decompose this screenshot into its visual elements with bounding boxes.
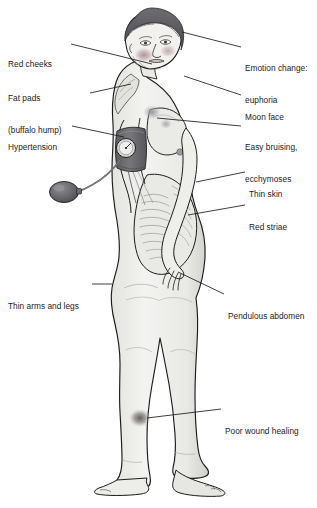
cushing-syndrome-figure: Red cheeks Fat pads (buffalo hump) Hyper… [0, 0, 317, 508]
label-pendulous-abdomen: Pendulous abdomen [228, 290, 304, 343]
ecchymosis-upper [143, 105, 161, 119]
label-fat-pads-line-1: Fat pads [8, 93, 62, 104]
label-thin-arms-and-legs-line-1: Thin arms and legs [8, 301, 79, 312]
leader-moon-face [184, 76, 241, 95]
leader-thin-skin [196, 172, 245, 182]
label-red-cheeks-line-1: Red cheeks [8, 59, 52, 70]
label-hypertension: Hypertension [8, 121, 57, 174]
label-poor-wound-healing: Poor wound healing [225, 405, 299, 458]
label-thin-skin-line-1: Thin skin [249, 189, 282, 200]
bp-bulb [50, 182, 79, 203]
label-hypertension-line-1: Hypertension [8, 142, 57, 153]
red-cheek-right [160, 45, 176, 58]
label-pendulous-abdomen-line-1: Pendulous abdomen [228, 311, 304, 322]
label-red-striae: Red striae [249, 201, 287, 254]
label-thin-arms-and-legs: Thin arms and legs [8, 280, 79, 333]
leader-emotion-change [182, 32, 241, 47]
ecchymosis-lower [160, 119, 172, 129]
left-foot [95, 478, 149, 496]
label-poor-wound-healing-line-1: Poor wound healing [225, 426, 299, 437]
label-red-striae-line-1: Red striae [249, 222, 287, 233]
bp-valve [77, 189, 82, 195]
label-emotion-change-line-1: Emotion change: [245, 63, 308, 74]
label-easy-bruising-line-1: Easy bruising, [245, 142, 297, 153]
